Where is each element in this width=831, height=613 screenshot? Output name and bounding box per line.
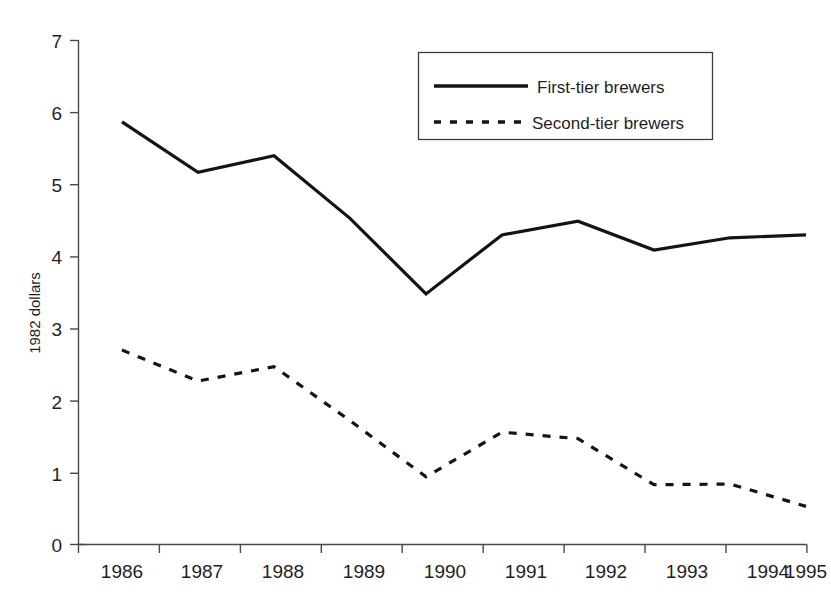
x-tick-label: 1987 [181,561,223,582]
x-tick-label: 1989 [343,561,385,582]
x-tick-label: 1990 [424,561,466,582]
x-tick-label: 1992 [585,561,627,582]
series-line-second-tier-brewers [122,350,806,506]
legend-label-first-tier: First-tier brewers [537,78,665,97]
y-tick-label: 2 [51,392,62,413]
x-tick-label: 1988 [262,561,304,582]
legend-label-second-tier: Second-tier brewers [532,114,684,133]
chart-legend: First-tier brewers Second-tier brewers [419,53,713,140]
y-axis-title: 1982 dollars [26,272,43,354]
y-tick-label: 6 [51,103,62,124]
y-tick-label: 3 [51,319,62,340]
y-tick-label: 7 [51,31,62,52]
x-axis-tick-labels: 1986 1987 1988 1989 1990 1991 1992 1993 … [101,561,827,582]
y-tick-label: 4 [51,247,62,268]
x-tick-label: 1993 [666,561,708,582]
chart-container: 7 6 5 4 3 2 1 0 1982 dollars 1986 [0,0,831,613]
y-tick-label: 0 [51,535,62,556]
line-chart: 7 6 5 4 3 2 1 0 1982 dollars 1986 [0,0,831,613]
x-tick-label: 1995 [785,561,827,582]
x-tick-label: 1994 [747,561,790,582]
x-tick-label: 1991 [505,561,547,582]
series-line-first-tier-brewers [122,122,806,294]
y-tick-label: 5 [51,175,62,196]
y-tick-label: 1 [51,464,62,485]
x-axis-ticks [79,545,807,554]
x-tick-label: 1986 [101,561,143,582]
y-axis-tick-labels: 7 6 5 4 3 2 1 0 [51,31,62,556]
